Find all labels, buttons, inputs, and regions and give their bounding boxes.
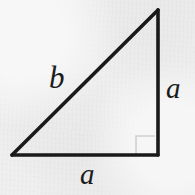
label-vertical-leg-a: a bbox=[166, 74, 181, 103]
triangle-side-hypotenuse bbox=[12, 10, 158, 155]
right-triangle-figure: b a a bbox=[0, 0, 195, 195]
label-horizontal-leg-a: a bbox=[80, 160, 95, 189]
label-hypotenuse-b: b bbox=[49, 62, 65, 93]
right-angle-marker-icon bbox=[136, 136, 155, 155]
